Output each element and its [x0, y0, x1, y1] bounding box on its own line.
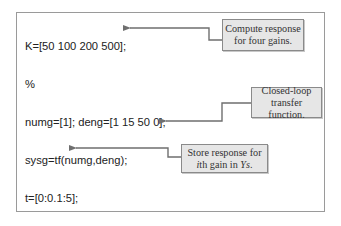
- callout-closed-loop: Closed-loop transfer function.: [251, 87, 322, 118]
- callout-compute-response: Compute response for four gains.: [222, 19, 304, 51]
- callout-text: transfer function.: [252, 97, 321, 121]
- callout-text: Store response for: [182, 147, 267, 159]
- callout-text-span: .: [250, 159, 253, 170]
- matlab-code-listing: K=[50 100 200 500]; % numg=[1]; deng=[1 …: [25, 15, 216, 226]
- code-line: %: [25, 78, 216, 91]
- callout-store-response: Store response for ith gain in Ys.: [181, 144, 268, 173]
- code-line: numg=[1]; deng=[1 15 50 0];: [25, 116, 216, 129]
- callout-italic-ys: Ys: [240, 159, 250, 170]
- callout-text: ith gain in Ys.: [182, 159, 267, 171]
- callout-text: Compute response: [223, 23, 303, 35]
- callout-text: Closed-loop: [252, 85, 321, 97]
- callout-text: for four gains.: [223, 35, 303, 47]
- code-line: t=[0:0.1:5];: [25, 192, 216, 205]
- code-line: K=[50 100 200 500];: [25, 40, 216, 53]
- callout-text-span: th gain in: [199, 159, 240, 170]
